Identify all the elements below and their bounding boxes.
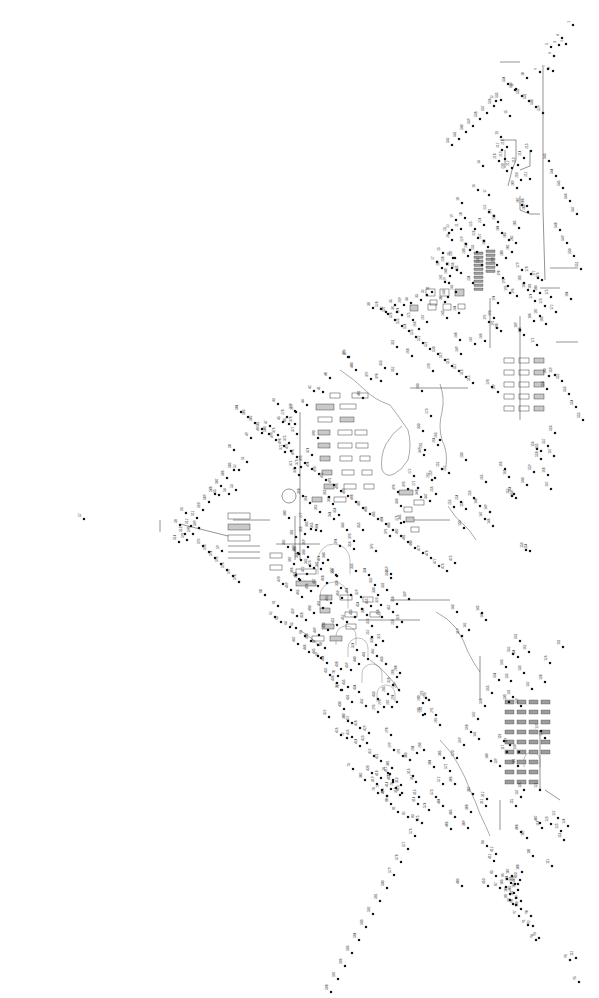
point-marker <box>449 770 451 772</box>
point-marker <box>387 313 389 315</box>
point-label: 567 <box>472 711 476 716</box>
point-marker <box>380 604 382 606</box>
point-label: 139 <box>494 758 498 763</box>
point-marker <box>520 179 522 181</box>
point-label: 60 <box>259 589 263 593</box>
cell-block <box>505 720 514 724</box>
point-label: 487 <box>357 500 361 505</box>
cell-block <box>541 750 550 754</box>
point-marker <box>542 112 544 114</box>
point-marker <box>429 348 431 350</box>
point-label: 225 <box>469 221 473 226</box>
point-marker <box>508 701 510 703</box>
point-label: 507 <box>215 478 219 483</box>
point-marker <box>294 410 296 412</box>
point-label: 112 <box>570 951 574 956</box>
point-marker <box>417 487 419 489</box>
point-label: 574 <box>423 802 427 807</box>
point-marker <box>539 789 541 791</box>
point-marker <box>370 378 372 380</box>
point-label: 316 <box>407 768 411 773</box>
point-label: 295 <box>372 704 376 709</box>
point-marker <box>277 403 279 405</box>
point-label: 299 <box>388 742 392 747</box>
point-marker <box>330 991 332 993</box>
point-marker <box>482 165 484 167</box>
point-marker <box>330 602 332 604</box>
point-label: 587 <box>332 971 336 976</box>
point-marker <box>380 308 382 310</box>
point-marker <box>372 307 374 309</box>
point-label: 19 <box>450 214 454 218</box>
point-label: 91 <box>522 919 526 923</box>
point-marker <box>532 855 534 857</box>
point-label: 497 <box>285 443 289 448</box>
point-label: 331 <box>381 582 385 587</box>
point-marker <box>318 634 320 636</box>
point-label: 523 <box>410 329 414 334</box>
point-label: 175 <box>545 289 549 294</box>
point-marker <box>354 616 356 618</box>
point-marker <box>539 292 541 294</box>
point-marker <box>575 406 577 408</box>
point-label: 472 <box>301 566 305 571</box>
point-label: 477 <box>433 558 437 563</box>
point-label: 328 <box>387 677 391 682</box>
point-label: 495 <box>299 455 303 460</box>
point-marker <box>317 437 319 439</box>
point-marker <box>304 462 306 464</box>
point-marker <box>375 644 377 646</box>
point-marker <box>508 239 510 241</box>
point-marker <box>491 386 493 388</box>
point-label: 401 <box>357 390 361 395</box>
point-label: 219 <box>499 151 503 156</box>
point-marker <box>551 865 553 867</box>
point-label: 142 <box>463 622 467 627</box>
point-label: 16 <box>472 184 476 188</box>
cell-block <box>474 268 483 270</box>
point-marker <box>446 570 448 572</box>
point-marker <box>423 749 425 751</box>
point-marker <box>518 915 520 917</box>
point-marker <box>458 312 460 314</box>
point-label: 128 <box>539 730 543 735</box>
point-marker <box>392 779 394 781</box>
point-label: 557 <box>542 438 546 443</box>
point-marker <box>502 277 504 279</box>
point-marker <box>422 714 424 716</box>
point-label: 533 <box>509 82 513 87</box>
point-marker <box>534 300 536 302</box>
cell-block <box>517 740 526 744</box>
point-label: 559 <box>528 464 532 469</box>
point-label: 352 <box>391 366 395 371</box>
point-marker <box>465 243 467 245</box>
point-marker <box>368 574 370 576</box>
point-label: 424 <box>354 738 358 743</box>
point-label: 174 <box>529 293 533 298</box>
point-marker <box>548 375 550 377</box>
point-label: 344 <box>328 511 332 516</box>
point-label: 591 <box>181 532 185 537</box>
point-marker <box>352 768 354 770</box>
point-marker <box>268 433 270 435</box>
point-marker <box>496 264 498 266</box>
point-marker <box>319 511 321 513</box>
point-label: 589 <box>193 520 197 525</box>
point-marker <box>329 377 331 379</box>
point-label: 145 <box>476 605 480 610</box>
cell-block <box>505 730 514 734</box>
point-label: 594 <box>209 550 213 555</box>
point-marker <box>185 512 187 514</box>
point-marker <box>381 616 383 618</box>
point-marker <box>491 692 493 694</box>
point-marker <box>186 539 188 541</box>
point-label: 545 <box>557 180 561 185</box>
point-marker <box>444 359 446 361</box>
point-marker <box>507 285 509 287</box>
point-label: 403 <box>456 878 460 883</box>
point-label: 546 <box>564 193 568 198</box>
point-label: 404 <box>437 798 441 803</box>
point-marker <box>562 187 564 189</box>
point-marker <box>505 886 507 888</box>
point-marker <box>509 744 511 746</box>
